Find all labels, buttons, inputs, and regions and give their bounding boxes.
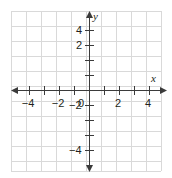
coordinate-plane-graphic: [0, 0, 172, 178]
y-tick-label-2: 2: [76, 40, 82, 51]
y-tick-label-4: 4: [76, 25, 82, 36]
coordinate-plane-figure: −4 −2 2 4 0 4 2 −2 −4 y x: [0, 0, 172, 178]
x-axis-arrow-right: [160, 87, 167, 94]
y-tick-label--4: −4: [69, 145, 82, 156]
x-tick-label-2: 2: [112, 98, 124, 109]
y-axis-label: y: [93, 11, 98, 22]
x-axis-arrow-left: [11, 87, 18, 94]
x-axis-label: x: [151, 73, 156, 84]
y-axis-arrow-up: [86, 11, 93, 18]
x-tick-label--2: −2: [51, 98, 65, 109]
x-tick-label--4: −4: [21, 98, 35, 109]
y-axis-arrow-down: [86, 165, 93, 172]
y-tick-label--2: −2: [69, 100, 82, 111]
x-tick-label-4: 4: [142, 98, 154, 109]
